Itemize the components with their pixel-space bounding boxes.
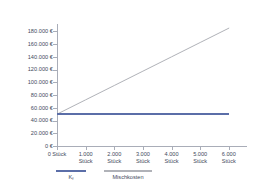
y-axis-tick-mark bbox=[53, 70, 58, 71]
legend-label-fixkosten: Kf bbox=[56, 174, 86, 181]
y-axis-tick-mark bbox=[53, 82, 58, 83]
y-axis-tick-label: 60.000 € bbox=[5, 105, 53, 111]
x-axis-tick-mark bbox=[200, 146, 201, 150]
y-axis-tick-label: 40.000 € bbox=[5, 117, 53, 123]
series-fixkosten-line bbox=[57, 113, 229, 115]
y-axis-tick-mark bbox=[53, 44, 58, 45]
x-axis-tick-mark bbox=[229, 146, 230, 150]
legend-item-mischkosten: Mischkosten bbox=[104, 170, 152, 181]
y-axis-tick-label: 0 € bbox=[5, 143, 53, 149]
y-axis-tick-mark bbox=[53, 95, 58, 96]
x-axis-tick-mark bbox=[86, 146, 87, 150]
chart-legend: Kf Mischkosten bbox=[0, 170, 265, 195]
legend-swatch-fixkosten bbox=[56, 170, 86, 172]
y-axis-tick-mark bbox=[53, 57, 58, 58]
y-axis-tick-label: 140.000 € bbox=[5, 54, 53, 60]
y-axis-tick-mark bbox=[53, 133, 58, 134]
legend-label-mischkosten-base: Mischkosten bbox=[112, 174, 143, 180]
cost-curve-chart: 0 €20.000 €40.000 €60.000 €80.000 €100.0… bbox=[0, 0, 265, 195]
x-axis-tick-label: 6.000Stück bbox=[206, 151, 252, 165]
y-axis-tick-mark bbox=[53, 108, 58, 109]
y-axis-tick-mark bbox=[53, 31, 58, 32]
series-mischkosten bbox=[57, 25, 246, 146]
y-axis-tick-label: 20.000 € bbox=[5, 130, 53, 136]
y-axis-tick-label: 120.000 € bbox=[5, 66, 53, 72]
y-axis-tick-label: 160.000 € bbox=[5, 41, 53, 47]
series-mischkosten-path bbox=[57, 25, 246, 146]
legend-item-fixkosten: Kf bbox=[56, 170, 86, 181]
legend-label-fixkosten-sub: f bbox=[72, 176, 73, 181]
y-axis-tick-label: 180.000 € bbox=[5, 28, 53, 34]
y-axis-line bbox=[57, 24, 58, 147]
x-axis-tick-mark bbox=[114, 146, 115, 150]
legend-label-mischkosten: Mischkosten bbox=[104, 174, 152, 181]
x-axis-tick-mark bbox=[143, 146, 144, 150]
y-axis-tick-label: 100.000 € bbox=[5, 79, 53, 85]
legend-swatch-mischkosten bbox=[104, 170, 152, 172]
y-axis-tick-mark bbox=[53, 121, 58, 122]
x-axis-tick-mark bbox=[57, 146, 58, 150]
x-axis-tick-mark bbox=[172, 146, 173, 150]
y-axis-tick-label: 80.000 € bbox=[5, 92, 53, 98]
